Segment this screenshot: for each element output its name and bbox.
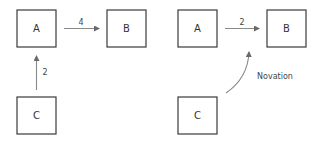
node-b-label: B: [123, 23, 130, 34]
node-a-label: A: [33, 23, 40, 34]
node-a: A: [178, 10, 217, 47]
node-a: A: [17, 10, 56, 47]
edge-a-to-b-label: 4: [78, 18, 83, 27]
node-b: B: [267, 10, 306, 47]
node-c-label: C: [33, 110, 40, 121]
edge-c-to-a-label: 2: [42, 68, 47, 77]
edge-a-to-b-label: 2: [239, 18, 244, 27]
novation-curved-arrow: [226, 52, 249, 93]
left-diagram: A B C 4 2: [17, 10, 146, 134]
diagram-canvas: A B C 4 2 A B C 2 Novation: [0, 0, 320, 142]
node-a-label: A: [194, 23, 201, 34]
node-b: B: [107, 10, 146, 47]
novation-label: Novation: [257, 72, 293, 81]
right-diagram: A B C 2 Novation: [178, 10, 306, 134]
node-b-label: B: [283, 23, 290, 34]
node-c: C: [17, 97, 56, 134]
node-c: C: [178, 97, 217, 134]
node-c-label: C: [194, 110, 201, 121]
